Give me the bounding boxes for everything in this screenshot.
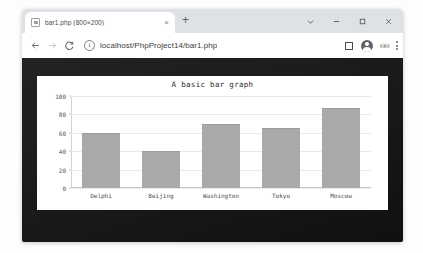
screenshot-root: bar1.php (800×200) × + xyxy=(0,0,423,253)
bar-group: Washington xyxy=(191,96,251,188)
back-button[interactable] xyxy=(27,37,44,54)
x-axis-label: Moscow xyxy=(330,192,352,199)
tab-strip: bar1.php (800×200) × + xyxy=(22,9,403,33)
kebab-menu-icon[interactable] xyxy=(396,41,398,50)
tab-close-icon[interactable]: × xyxy=(162,19,171,27)
bar xyxy=(142,151,180,188)
bookmark-icon[interactable] xyxy=(342,39,355,52)
close-button[interactable] xyxy=(375,10,401,32)
site-info-icon[interactable]: i xyxy=(84,40,95,51)
plot-area: 020406080100 DelphiBeijingWashingtonToky… xyxy=(71,96,371,188)
reload-button[interactable] xyxy=(61,37,78,54)
bar xyxy=(82,133,120,188)
maximize-button[interactable] xyxy=(349,10,375,32)
x-axis-label: Tokyo xyxy=(272,192,290,199)
gridline xyxy=(71,188,371,189)
chevron-down-button[interactable] xyxy=(297,10,323,32)
toolbar-actions: ⛁⛁ xyxy=(338,39,398,52)
bar xyxy=(202,124,240,188)
minimize-button[interactable] xyxy=(323,10,349,32)
browser-viewport: A basic bar graph 020406080100 DelphiBei… xyxy=(22,58,403,242)
extensions-icon[interactable]: ⛁⛁ xyxy=(378,39,391,52)
browser-window: bar1.php (800×200) × + xyxy=(22,9,403,242)
browser-tab[interactable]: bar1.php (800×200) × xyxy=(25,12,175,33)
url-text: localhost/PhpProject14/bar1.php xyxy=(100,41,217,50)
bar xyxy=(262,128,300,188)
image-file-icon xyxy=(31,18,40,27)
address-bar[interactable]: i localhost/PhpProject14/bar1.php xyxy=(84,38,338,54)
bar xyxy=(322,108,360,188)
x-axis-label: Beijing xyxy=(148,192,173,199)
new-tab-button[interactable]: + xyxy=(182,14,189,26)
bar-series: DelphiBeijingWashingtonTokyoMoscow xyxy=(71,96,371,188)
bar-group: Delphi xyxy=(71,96,131,188)
bar-group: Moscow xyxy=(311,96,371,188)
x-axis-label: Delphi xyxy=(90,192,112,199)
browser-toolbar: i localhost/PhpProject14/bar1.php ⛁⛁ xyxy=(22,33,403,58)
x-axis-label: Washington xyxy=(203,192,239,199)
bar-group: Tokyo xyxy=(251,96,311,188)
profile-avatar-icon[interactable] xyxy=(360,39,373,52)
forward-button[interactable] xyxy=(44,37,61,54)
tab-title: bar1.php (800×200) xyxy=(45,19,162,26)
bar-group: Beijing xyxy=(131,96,191,188)
chart-title: A basic bar graph xyxy=(37,80,388,89)
window-controls xyxy=(297,9,401,33)
chart-image: A basic bar graph 020406080100 DelphiBei… xyxy=(37,76,388,210)
